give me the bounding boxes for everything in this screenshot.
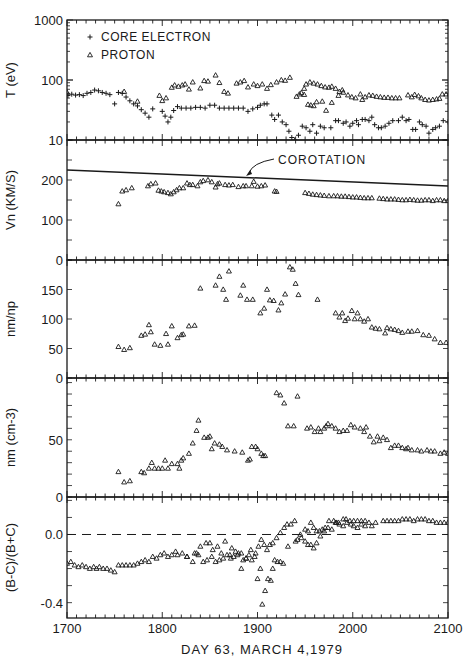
- y-tick-label: 1000: [34, 13, 63, 28]
- y-tick-label: 100: [41, 73, 63, 88]
- triangle-marker: [248, 547, 253, 551]
- plot-area: [65, 517, 451, 607]
- triangle-marker: [196, 418, 201, 422]
- plus-marker: [245, 109, 250, 114]
- triangle-marker: [366, 520, 371, 524]
- triangle-marker: [325, 421, 330, 425]
- triangle-marker: [326, 193, 331, 197]
- triangle-marker: [249, 183, 254, 187]
- panels: 101001000T (eV)CORE ELECTRONPROTON010020…: [3, 13, 452, 618]
- triangle-marker: [383, 331, 388, 335]
- plus-marker: [124, 95, 129, 100]
- triangle-marker: [396, 443, 401, 447]
- triangle-marker: [430, 518, 435, 522]
- triangle-marker: [122, 480, 127, 484]
- triangle-marker: [245, 85, 250, 89]
- triangle-marker: [421, 332, 426, 336]
- triangle-marker: [442, 450, 447, 454]
- panel-anisotropy: 0.0-0.4(B-C)/(B+C): [3, 497, 451, 618]
- triangle-marker: [172, 83, 177, 87]
- triangle-marker: [213, 283, 218, 287]
- triangle-marker: [190, 559, 195, 563]
- triangle-marker: [259, 537, 264, 541]
- triangle-marker: [212, 441, 217, 445]
- triangle-marker: [205, 79, 210, 83]
- triangle-marker: [164, 95, 169, 99]
- triangle-marker: [265, 547, 270, 551]
- triangle-marker: [194, 428, 199, 432]
- triangle-marker: [260, 82, 265, 86]
- triangle-marker: [320, 99, 325, 103]
- triangle-marker: [358, 426, 363, 430]
- triangle-marker: [412, 92, 417, 96]
- plus-marker: [171, 108, 176, 113]
- triangle-marker: [181, 185, 186, 189]
- triangle-marker: [112, 569, 117, 573]
- triangle-marker: [270, 566, 275, 570]
- series-proton-cont-: [303, 190, 451, 202]
- plus-marker: [236, 106, 241, 111]
- series-proton: [116, 264, 443, 351]
- triangle-marker: [345, 428, 350, 432]
- triangle-marker: [143, 332, 148, 336]
- plus-marker: [88, 35, 93, 40]
- y-tick-label: 0: [56, 253, 63, 268]
- triangle-marker: [311, 525, 316, 529]
- triangle-marker: [127, 345, 132, 349]
- triangle-marker: [162, 551, 167, 555]
- panel-frame: [67, 497, 448, 618]
- plus-marker: [184, 106, 189, 111]
- triangle-marker: [143, 557, 148, 561]
- y-tick-label: 100: [41, 312, 63, 327]
- legend-label: CORE ELECTRON: [101, 30, 211, 44]
- plus-marker: [289, 135, 294, 140]
- plus-marker: [165, 119, 170, 124]
- triangle-marker: [340, 311, 345, 315]
- x-tick-label: 2000: [338, 621, 367, 636]
- triangle-marker: [122, 89, 127, 93]
- triangle-marker: [307, 80, 312, 84]
- y-tick-label: 0: [56, 490, 63, 505]
- plus-marker: [328, 125, 333, 130]
- triangle-marker: [251, 179, 256, 183]
- triangle-marker: [152, 342, 157, 346]
- triangle-marker: [262, 542, 267, 546]
- plus-marker: [272, 117, 277, 122]
- triangle-marker: [219, 551, 224, 555]
- triangle-marker: [163, 458, 168, 462]
- plus-marker: [222, 106, 227, 111]
- triangle-marker: [437, 96, 442, 100]
- triangle-marker: [215, 544, 220, 548]
- triangle-marker: [250, 297, 255, 301]
- triangle-marker: [186, 451, 191, 455]
- triangle-marker: [326, 518, 331, 522]
- triangle-marker: [308, 542, 313, 546]
- triangle-marker: [238, 293, 243, 297]
- triangle-marker: [349, 308, 354, 312]
- triangle-marker: [224, 297, 229, 301]
- triangle-marker: [149, 460, 154, 464]
- triangle-marker: [308, 520, 313, 524]
- y-tick-label: 0.0: [45, 527, 63, 542]
- triangle-marker: [314, 540, 319, 544]
- series-proton-cont-: [185, 517, 451, 607]
- annotation-arrow: [249, 159, 274, 173]
- triangle-marker: [190, 441, 195, 445]
- x-tick-label: 1900: [243, 621, 272, 636]
- triangle-marker: [258, 311, 263, 315]
- triangle-marker: [190, 80, 195, 84]
- triangle-marker: [198, 86, 203, 90]
- triangle-marker: [209, 554, 214, 558]
- plus-marker: [296, 133, 301, 138]
- plus-marker: [307, 129, 312, 134]
- y-axis-label: T (eV): [3, 62, 18, 98]
- triangle-marker: [185, 554, 190, 558]
- triangle-marker: [314, 99, 319, 103]
- triangle-marker: [217, 274, 222, 278]
- triangle-marker: [293, 281, 298, 285]
- triangle-marker: [260, 602, 265, 606]
- triangle-marker: [229, 546, 234, 550]
- plus-marker: [226, 106, 231, 111]
- plus-marker: [77, 92, 82, 97]
- triangle-marker: [397, 95, 402, 99]
